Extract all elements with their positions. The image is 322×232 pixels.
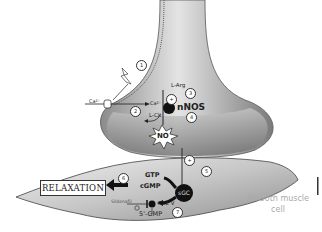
edge-marker	[317, 177, 319, 195]
step-7-marker: 7	[172, 207, 183, 218]
no-label: NO	[157, 133, 169, 140]
step-4-marker: 4	[186, 112, 197, 123]
l-arg-label: L-Arg	[171, 83, 185, 89]
l-cit-label: L-Cit	[149, 113, 161, 119]
nnos-label: nNOS	[177, 103, 205, 112]
step-6-marker: 6	[118, 173, 129, 184]
step-1-marker: 1	[136, 60, 147, 71]
pde5-label: PDE V	[158, 201, 175, 207]
ca-inside-label: Ca²⁺	[150, 101, 161, 106]
sildenafil-label: Sildenafil	[111, 200, 132, 205]
plus-marker-sgc: +	[184, 155, 195, 166]
step-5-marker: 5	[201, 166, 212, 177]
sgc-label: sGC	[178, 190, 190, 196]
five-gmp-label: 5'-GMP	[139, 211, 162, 218]
cell-caption-line2: cell	[238, 205, 318, 216]
cell-caption-line1: Smooth muscle	[238, 194, 318, 205]
ca-outside-label: Ca²⁺	[89, 99, 100, 104]
gtp-label: GTP	[145, 172, 159, 179]
cgmp-label: cGMP	[140, 183, 160, 190]
step-2-marker: 2	[130, 106, 141, 117]
cell-caption: Smooth muscle cell	[238, 194, 318, 216]
plus-marker-nnos: +	[166, 94, 177, 105]
step-3-marker: 3	[185, 88, 196, 99]
relaxation-box: RELAXATION	[40, 180, 106, 196]
